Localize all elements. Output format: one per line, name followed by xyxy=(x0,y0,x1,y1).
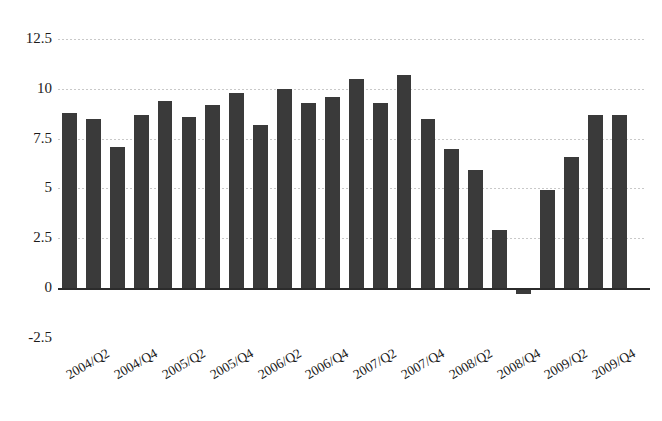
bar[interactable] xyxy=(612,115,627,288)
bar[interactable] xyxy=(62,113,77,288)
bar[interactable] xyxy=(516,290,531,294)
y-axis-tick-label: 2.5 xyxy=(6,230,52,245)
bar[interactable] xyxy=(205,105,220,288)
x-axis-tick-label: 2009/Q4 xyxy=(590,346,638,382)
bar[interactable] xyxy=(229,93,244,288)
bars-series xyxy=(58,30,646,300)
x-axis-tick-label: 2006/Q2 xyxy=(256,346,304,382)
y-axis-tick-label: 12.5 xyxy=(6,31,52,46)
x-axis-tick-label: 2008/Q4 xyxy=(495,346,543,382)
bar[interactable] xyxy=(134,115,149,288)
bar[interactable] xyxy=(397,75,412,288)
bar[interactable] xyxy=(301,103,316,288)
y-axis: 12.5107.552.50-2.5 xyxy=(0,0,52,421)
bar[interactable] xyxy=(110,147,125,288)
bar[interactable] xyxy=(588,115,603,288)
y-axis-tick-label: 5 xyxy=(6,180,52,195)
bar[interactable] xyxy=(373,103,388,288)
bar[interactable] xyxy=(540,190,555,288)
y-axis-tick-label: 10 xyxy=(6,81,52,96)
bar-chart: 12.5107.552.50-2.5 2004/Q22004/Q42005/Q2… xyxy=(0,0,662,421)
x-axis-tick-label: 2007/Q2 xyxy=(351,346,399,382)
x-axis-tick-label: 2009/Q2 xyxy=(542,346,590,382)
x-axis-tick-label: 2005/Q2 xyxy=(160,346,208,382)
bar[interactable] xyxy=(182,117,197,288)
bar[interactable] xyxy=(468,170,483,288)
y-axis-tick-label: 7.5 xyxy=(6,131,52,146)
bar[interactable] xyxy=(492,230,507,288)
x-axis-tick-label: 2005/Q4 xyxy=(208,346,256,382)
x-axis-tick-label: 2004/Q4 xyxy=(112,346,160,382)
x-axis-tick-label: 2007/Q4 xyxy=(399,346,447,382)
bar[interactable] xyxy=(564,157,579,288)
bar[interactable] xyxy=(86,119,101,288)
y-axis-tick-label: 0 xyxy=(6,280,52,295)
bar[interactable] xyxy=(444,149,459,288)
bar[interactable] xyxy=(349,79,364,288)
bar[interactable] xyxy=(325,97,340,288)
plot-area xyxy=(58,30,646,300)
bar[interactable] xyxy=(253,125,268,288)
x-axis-tick-label: 2004/Q2 xyxy=(64,346,112,382)
bar[interactable] xyxy=(421,119,436,288)
y-axis-tick-label: -2.5 xyxy=(6,330,52,345)
x-axis-tick-label: 2006/Q4 xyxy=(303,346,351,382)
x-axis-tick-label: 2008/Q2 xyxy=(447,346,495,382)
bar[interactable] xyxy=(277,89,292,288)
bar[interactable] xyxy=(158,101,173,288)
